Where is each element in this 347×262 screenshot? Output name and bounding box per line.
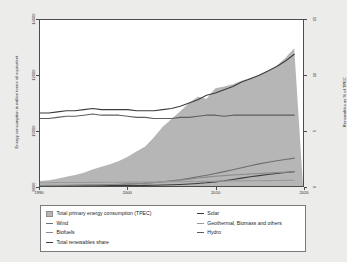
legend-label: Solar — [207, 211, 219, 216]
tick-mark-y-right — [304, 19, 307, 20]
tick-mark-y-left — [36, 131, 39, 132]
legend-entry[interactable]: Biofuels — [46, 229, 197, 236]
tick-mark-y-right — [304, 75, 307, 76]
legend-label: Biofuels — [57, 230, 75, 235]
legend-swatch-line-icon — [197, 223, 204, 224]
legend-label: Geothermal, Biomass and others — [207, 221, 281, 226]
legend-swatch-line-icon — [46, 223, 53, 224]
legend-label: Hydro — [207, 230, 221, 235]
plot-area — [39, 19, 304, 187]
legend-swatch-line-icon — [46, 232, 53, 233]
chart-legend: Total primary energy consumption (TPEC)W… — [40, 205, 306, 252]
legend-column-right: SolarGeothermal, Biomass and othersHydro — [197, 210, 300, 246]
legend-entry[interactable]: Hydro — [197, 229, 300, 236]
x-axis-tick-label: 2000 — [112, 191, 142, 195]
legend-swatch-area-icon — [46, 211, 53, 217]
x-axis-tick-label: 1990 — [24, 191, 54, 195]
y-axis-left-tick-label: 8000 — [32, 172, 36, 202]
tick-mark-y-left — [36, 19, 39, 20]
series-area — [40, 48, 303, 186]
legend-swatch-line-icon — [46, 242, 53, 243]
y-axis-left-tick-label: 12000 — [32, 60, 36, 90]
y-axis-right-title: Renewables as % of TPEC — [343, 42, 347, 162]
y-axis-right-tick-label: 15 — [313, 9, 317, 29]
y-axis-left-tick-label: 10000 — [32, 116, 36, 146]
y-axis-right-tick-label: 5 — [313, 121, 317, 141]
legend-label: Total primary energy consumption (TPEC) — [57, 211, 152, 216]
plot-canvas — [40, 20, 303, 186]
x-axis-tick-label: 2020 — [289, 191, 319, 195]
legend-swatch-line-icon — [197, 213, 204, 214]
legend-column-left: Total primary energy consumption (TPEC)W… — [46, 210, 197, 246]
x-axis-tick-label: 2010 — [201, 191, 231, 195]
legend-label: Wind — [57, 221, 69, 226]
legend-label: Total renewables share — [57, 240, 109, 245]
y-axis-left-title: Energy consumption in million tonne oil … — [15, 42, 19, 162]
y-axis-right-tick-label: 10 — [313, 65, 317, 85]
legend-entry[interactable]: Total renewables share — [46, 239, 197, 246]
legend-swatch-line-icon — [197, 232, 204, 233]
legend-entry[interactable]: Solar — [197, 210, 300, 217]
tick-mark-y-right — [304, 131, 307, 132]
y-axis-left-tick-label: 14000 — [32, 4, 36, 34]
legend-entry[interactable]: Total primary energy consumption (TPEC) — [46, 210, 197, 217]
tick-mark-y-left — [36, 75, 39, 76]
legend-entry[interactable]: Wind — [46, 220, 197, 227]
legend-entry[interactable]: Geothermal, Biomass and others — [197, 220, 300, 227]
